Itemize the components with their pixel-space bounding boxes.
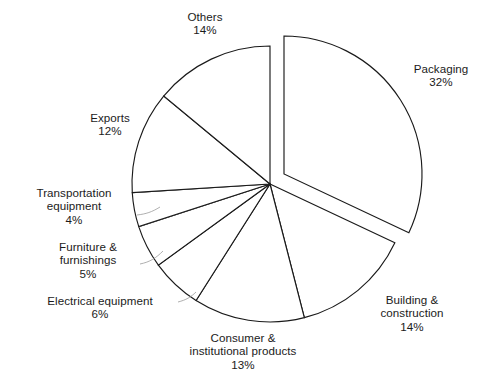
- label-others: Others 14%: [162, 10, 248, 37]
- label-building-construction: Building & construction 14%: [358, 293, 466, 333]
- label-packaging: Packaging 32%: [396, 62, 486, 89]
- label-others-percent: 14%: [162, 23, 248, 36]
- label-exports: Exports 12%: [72, 111, 148, 138]
- label-furniture-furnishings-text-line1: Furniture &: [59, 240, 117, 253]
- label-transportation-equipment: Transportation equipment 4%: [16, 186, 132, 226]
- label-furniture-furnishings: Furniture & furnishings 5%: [38, 240, 138, 280]
- label-building-construction-percent: 14%: [358, 320, 466, 333]
- label-consumer-institutional-products-percent: 13%: [160, 358, 326, 371]
- label-consumer-institutional-products-text-line2: institutional products: [160, 344, 326, 357]
- label-transportation-equipment-text-line1: Transportation: [36, 186, 111, 199]
- label-exports-text: Exports: [90, 111, 130, 124]
- label-building-construction-text-line2: construction: [358, 306, 466, 319]
- label-transportation-equipment-text-line2: equipment: [16, 199, 132, 212]
- label-packaging-text: Packaging: [414, 62, 469, 75]
- label-furniture-furnishings-text-line2: furnishings: [38, 253, 138, 266]
- label-furniture-furnishings-percent: 5%: [38, 267, 138, 280]
- label-building-construction-text-line1: Building &: [386, 293, 439, 306]
- label-electrical-equipment: Electrical equipment 6%: [22, 294, 178, 321]
- label-consumer-institutional-products: Consumer & institutional products 13%: [160, 331, 326, 371]
- label-others-text: Others: [187, 10, 222, 23]
- label-transportation-equipment-percent: 4%: [16, 213, 132, 226]
- label-electrical-equipment-text: Electrical equipment: [47, 294, 152, 307]
- label-exports-percent: 12%: [72, 124, 148, 137]
- label-consumer-institutional-products-text-line1: Consumer &: [211, 331, 276, 344]
- label-packaging-percent: 32%: [396, 75, 486, 88]
- label-electrical-equipment-percent: 6%: [22, 307, 178, 320]
- pie-chart: Others 14% Packaging 32% Exports 12% Tra…: [0, 0, 492, 389]
